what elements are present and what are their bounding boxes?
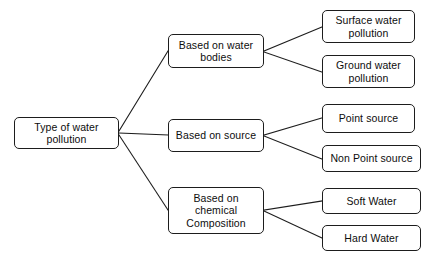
node-non-point-source: Non Point source bbox=[322, 145, 421, 172]
node-based-on-chemical-composition: Based on chemical Composition bbox=[168, 187, 264, 234]
node-ground-water-pollution: Ground water pollution bbox=[322, 55, 415, 88]
edge-bodies-to-surface bbox=[264, 27, 322, 51]
node-label: Based on chemical Composition bbox=[183, 192, 248, 230]
edge-bodies-to-ground bbox=[264, 52, 322, 72]
node-label: Based on water bodies bbox=[176, 39, 256, 64]
edge-root-to-bodies bbox=[119, 51, 168, 131]
node-label: Surface water pollution bbox=[332, 14, 404, 39]
node-label: Non Point source bbox=[327, 152, 415, 165]
node-label: Ground water pollution bbox=[333, 59, 404, 84]
edge-root-to-source bbox=[119, 133, 168, 135]
node-hard-water: Hard Water bbox=[322, 225, 421, 251]
edge-source-to-nonpoint bbox=[264, 136, 322, 159]
node-surface-water-pollution: Surface water pollution bbox=[322, 10, 415, 43]
node-label: Soft Water bbox=[343, 195, 399, 208]
edge-source-to-point bbox=[264, 118, 322, 135]
node-label: Hard Water bbox=[341, 232, 401, 245]
node-based-on-water-bodies: Based on water bodies bbox=[168, 34, 264, 68]
node-label: Type of water pollution bbox=[31, 121, 101, 146]
node-point-source: Point source bbox=[322, 104, 415, 133]
node-label: Point source bbox=[336, 112, 402, 125]
node-label: Based on source bbox=[173, 129, 259, 142]
edge-root-to-chemical bbox=[119, 135, 168, 210]
node-soft-water: Soft Water bbox=[322, 188, 421, 214]
edge-chemical-to-soft bbox=[264, 201, 322, 210]
water-pollution-classification-diagram: Type of water pollution Based on water b… bbox=[0, 0, 444, 257]
node-type-of-water-pollution: Type of water pollution bbox=[14, 117, 119, 149]
edge-chemical-to-hard bbox=[264, 211, 322, 238]
node-based-on-source: Based on source bbox=[168, 119, 264, 152]
